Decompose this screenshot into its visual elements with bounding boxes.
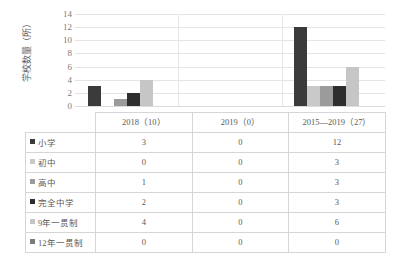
table-column-header-2015-2019: 2015—2019（27） — [289, 113, 386, 133]
table-cell: 2 — [96, 193, 193, 213]
table-column-header-2019: 2019（0） — [192, 113, 289, 133]
school-count-bar-chart-with-data-table: 学校数量（所） 02468101214 2018（10） 2019（0） 201… — [0, 0, 405, 259]
legend-label: 初中 — [38, 159, 56, 168]
table-row: 完全中学 2 0 3 — [26, 193, 386, 213]
y-axis-tick-label: 4 — [46, 75, 72, 84]
legend-swatch-icon — [30, 179, 35, 184]
table-row: 高中 1 0 3 — [26, 173, 386, 193]
table-cell: 12 — [289, 133, 386, 153]
plot-canvas — [75, 14, 385, 106]
y-axis-tick-label: 14 — [46, 10, 72, 19]
y-axis-tick-label: 8 — [46, 49, 72, 58]
table-column-header-2018: 2018（10） — [96, 113, 193, 133]
legend-label: 9年一贯制 — [38, 219, 78, 228]
legend-swatch-icon — [30, 219, 35, 224]
table-cell: 0 — [192, 173, 289, 193]
legend-item-gaozhong: 高中 — [26, 173, 96, 193]
legend-item-chuzhong: 初中 — [26, 153, 96, 173]
legend-label: 完全中学 — [38, 199, 74, 208]
bar — [320, 86, 333, 106]
table-cell: 3 — [289, 193, 386, 213]
legend-item-9nian: 9年一贯制 — [26, 213, 96, 233]
bar — [333, 86, 346, 106]
bar-group — [75, 14, 178, 106]
table-cell: 0 — [96, 233, 193, 253]
table-header-row: 2018（10） 2019（0） 2015—2019（27） — [26, 113, 386, 133]
table-cell: 0 — [192, 193, 289, 213]
table-cell: 0 — [192, 153, 289, 173]
y-axis-tick-label: 0 — [46, 102, 72, 111]
y-axis-tick-label: 10 — [46, 36, 72, 45]
bar-group — [178, 14, 281, 106]
legend-item-xiaoxue: 小学 — [26, 133, 96, 153]
y-axis-tick-label: 6 — [46, 62, 72, 71]
bar — [127, 93, 140, 106]
legend-item-wanquanzhongxue: 完全中学 — [26, 193, 96, 213]
bar — [114, 99, 127, 106]
table-row: 初中 0 0 3 — [26, 153, 386, 173]
gridline — [75, 106, 385, 107]
legend-swatch-icon — [30, 239, 35, 244]
bar-group — [282, 14, 385, 106]
bar — [307, 86, 320, 106]
table-cell: 3 — [289, 173, 386, 193]
table-cell: 4 — [96, 213, 193, 233]
table-cell: 0 — [192, 133, 289, 153]
y-axis-title: 学校数量（所） — [20, 8, 33, 94]
table-cell: 0 — [96, 153, 193, 173]
table-cell: 0 — [192, 213, 289, 233]
table-cell: 6 — [289, 213, 386, 233]
legend-label: 高中 — [38, 179, 56, 188]
table-body: 小学 3 0 12 初中 0 0 3 高中 1 0 3 — [26, 133, 386, 253]
bar — [294, 27, 307, 106]
legend-label: 12年一贯制 — [38, 239, 83, 248]
chart-data-table: 2018（10） 2019（0） 2015—2019（27） 小学 3 0 12… — [25, 112, 386, 253]
chart-plot-area: 学校数量（所） 02468101214 — [0, 0, 405, 118]
y-axis-tick-label: 12 — [46, 23, 72, 32]
y-axis-tick-label: 2 — [46, 88, 72, 97]
table-row: 12年一贯制 0 0 0 — [26, 233, 386, 253]
legend-swatch-icon — [30, 199, 35, 204]
table-cell: 3 — [289, 153, 386, 173]
table-cell: 0 — [289, 233, 386, 253]
table-cell: 1 — [96, 173, 193, 193]
bar — [346, 67, 359, 106]
table-corner-cell — [26, 113, 96, 133]
legend-swatch-icon — [30, 159, 35, 164]
legend-item-12nian: 12年一贯制 — [26, 233, 96, 253]
bar — [88, 86, 101, 106]
legend-swatch-icon — [30, 139, 35, 144]
y-axis-tick-labels: 02468101214 — [46, 14, 72, 106]
table-cell: 0 — [192, 233, 289, 253]
legend-label: 小学 — [38, 139, 56, 148]
table-row: 9年一贯制 4 0 6 — [26, 213, 386, 233]
bar — [140, 80, 153, 106]
table-cell: 3 — [96, 133, 193, 153]
table-row: 小学 3 0 12 — [26, 133, 386, 153]
